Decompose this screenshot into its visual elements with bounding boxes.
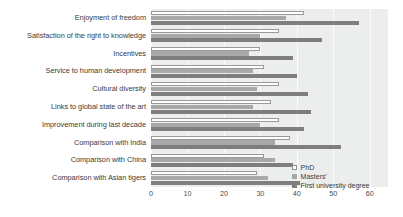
category-label: Links to global state of the art — [0, 98, 150, 116]
bar — [151, 140, 275, 144]
legend-label: PhD — [301, 164, 315, 171]
bar — [151, 123, 260, 127]
bar — [151, 65, 264, 69]
bar-group — [151, 98, 388, 116]
category-label: Service to human development — [0, 62, 150, 80]
chart-legend: PhDMasters'First university degree — [292, 163, 396, 191]
bar — [151, 34, 260, 38]
bar — [151, 110, 311, 114]
x-tick-label: 30 — [256, 189, 264, 198]
bar — [151, 163, 293, 167]
bar — [151, 82, 279, 86]
bar-group — [151, 134, 388, 152]
bar — [151, 171, 257, 175]
category-label: Comparison with China — [0, 151, 150, 169]
bar — [151, 11, 304, 15]
bar-group — [151, 80, 388, 98]
bar — [151, 51, 249, 55]
bar — [151, 21, 359, 25]
category-label: Incentives — [0, 45, 150, 63]
category-axis: Enjoyment of freedomSatisfaction of the … — [0, 9, 150, 187]
bar — [151, 181, 300, 185]
bar — [151, 154, 264, 158]
bar — [151, 74, 297, 78]
bar-group — [151, 62, 388, 80]
bar — [151, 69, 253, 73]
bar-group — [151, 45, 388, 63]
plot-area — [151, 9, 388, 187]
legend-label: First university degree — [301, 182, 370, 189]
legend-swatch-icon — [292, 174, 297, 179]
bar — [151, 92, 308, 96]
bar — [151, 87, 257, 91]
legend-item: PhD — [292, 163, 396, 172]
bar — [151, 176, 268, 180]
category-label: Enjoyment of freedom — [0, 9, 150, 27]
bar — [151, 47, 260, 51]
x-tick-label: 20 — [220, 189, 228, 198]
bar-group — [151, 9, 388, 27]
x-tick-label: 0 — [149, 189, 153, 198]
category-label: Improvement during last decade — [0, 116, 150, 134]
bar — [151, 145, 341, 149]
legend-item: First university degree — [292, 181, 396, 190]
bar-group — [151, 116, 388, 134]
category-label: Cultural diversity — [0, 80, 150, 98]
bar — [151, 38, 322, 42]
legend-label: Masters' — [301, 173, 327, 180]
bar — [151, 158, 275, 162]
x-tick-label: 10 — [183, 189, 191, 198]
bar — [151, 105, 253, 109]
category-label: Comparison with India — [0, 134, 150, 152]
category-label: Comparison with Asian tigers — [0, 169, 150, 187]
bar — [151, 100, 271, 104]
legend-item: Masters' — [292, 172, 396, 181]
legend-swatch-icon — [292, 165, 297, 170]
bar — [151, 118, 279, 122]
bars-layer — [151, 9, 388, 187]
bar — [151, 29, 279, 33]
bar — [151, 56, 293, 60]
bar — [151, 16, 286, 20]
bar-chart: Enjoyment of freedomSatisfaction of the … — [0, 0, 403, 217]
bar-group — [151, 27, 388, 45]
legend-swatch-icon — [292, 183, 297, 188]
category-label: Satisfaction of the right to knowledge — [0, 27, 150, 45]
bar — [151, 127, 304, 131]
bar — [151, 136, 290, 140]
